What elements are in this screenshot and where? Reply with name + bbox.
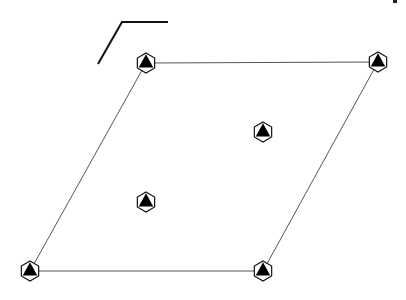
hexagon-triangle-icon [254, 122, 271, 142]
corner-fragment [393, 0, 397, 3]
lattice-canvas [0, 0, 406, 300]
hexagon-triangle-icon [137, 53, 154, 73]
hexagon-triangle-icon [254, 261, 271, 281]
cell-edge-0 [146, 62, 378, 63]
lattice-diagram [0, 0, 406, 300]
hexagon-triangle-icon [21, 261, 38, 281]
cell-edge-1 [263, 62, 378, 271]
axis-marker [98, 22, 168, 64]
cell-edge-3 [30, 63, 146, 271]
hexagon-triangle-icon [369, 52, 386, 72]
hexagon-triangle-icon [137, 192, 154, 212]
symmetry-symbols [21, 52, 386, 281]
unit-cell-edges [30, 62, 378, 271]
